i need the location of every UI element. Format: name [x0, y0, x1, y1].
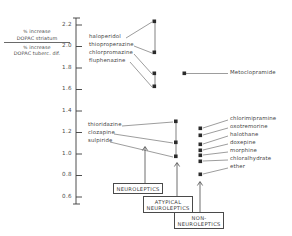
point-thioproperazine [153, 51, 157, 55]
series-label-chlorpromazine: chlorpromazine [89, 50, 133, 55]
series-label-oxotremorine: oxotremorine [230, 124, 268, 129]
series-label-doxepine: doxepine [230, 140, 256, 145]
category-box-neuroleptics-label: NEUROLEPTICS [117, 186, 160, 192]
category-box-non-neuroleptics[interactable]: NON- NEUROLEPTICS [174, 212, 224, 229]
leader-fluphenazine [130, 62, 152, 87]
point-ether [199, 173, 203, 177]
point-oxotremorine [199, 134, 203, 138]
leader-chloralhydrate [203, 160, 228, 161]
series-label-chloralhydrate: chloralhydrate [230, 156, 271, 161]
leader-oxotremorine [203, 128, 228, 135]
category-box-neuroleptics[interactable]: NEUROLEPTICS [113, 183, 163, 194]
leader-clozapine [114, 134, 173, 143]
point-morphine [199, 154, 203, 158]
leader-sulpiride [110, 142, 173, 157]
series-label-ether: ether [230, 164, 245, 169]
series-label-morphine: morphine [230, 148, 257, 153]
series-label-sulpiride: sulpiride [88, 138, 112, 143]
leader-thioridazine [122, 122, 173, 126]
leader-ether [203, 168, 228, 174]
series-label-halothane: halothane [230, 132, 258, 137]
point-doxepine [199, 149, 203, 153]
point-chlorpromazine [153, 72, 157, 76]
leader-doxepine [203, 144, 228, 150]
point-metoclopramide [183, 72, 187, 76]
series-label-thioproperazine: thioproperazine [89, 42, 134, 47]
chart-figure: % increaseDOPAC striatum % increaseDOPAC… [0, 0, 292, 236]
point-fluphenazine [153, 85, 157, 89]
series-label-haloperidol: haloperidol [89, 34, 121, 39]
series-label-metoclopramide: Metoclopramide [230, 70, 276, 75]
series-label-thioridazine: thioridazine [88, 122, 122, 127]
leader-halothane [203, 136, 228, 144]
category-box-atypical-line2: NEUROLEPTICS [147, 205, 190, 211]
category-box-atypical-neuroleptics[interactable]: ATYPICAL NEUROLEPTICS [143, 196, 193, 213]
leader-morphine [203, 152, 228, 155]
point-halothane [199, 143, 203, 147]
point-thioridazine [174, 120, 178, 124]
point-chlorimipramine [199, 127, 203, 131]
category-box-non-line2: NEUROLEPTICS [178, 221, 221, 227]
leader-chlorpromazine [134, 54, 152, 74]
leader-haloperidol [126, 22, 152, 38]
leader-chlorimipramine [203, 120, 228, 128]
category-box-non-line1: NON- [192, 215, 207, 221]
category-box-atypical-line1: ATYPICAL [155, 199, 182, 205]
point-chloralhydrate [199, 160, 203, 164]
point-haloperidol [153, 20, 157, 24]
leader-thioproperazine [134, 46, 152, 53]
point-sulpiride [174, 155, 178, 159]
point-clozapine [174, 141, 178, 145]
series-label-clozapine: clozapine [88, 130, 115, 135]
series-label-chlorimipramine: chlorimipramine [230, 116, 276, 121]
series-label-fluphenazine: fluphenazine [89, 58, 126, 63]
